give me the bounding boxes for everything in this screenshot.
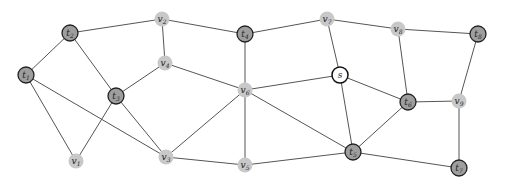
node-label: s bbox=[338, 70, 343, 80]
node-t6: t6 bbox=[400, 94, 416, 110]
node-t1: t1 bbox=[18, 67, 34, 83]
edge-v4-v6 bbox=[165, 63, 245, 90]
edge-v6-t5 bbox=[245, 90, 353, 152]
edge-t2-v2 bbox=[70, 19, 162, 33]
edge-t1-t2 bbox=[26, 33, 70, 75]
edge-t1-v3 bbox=[26, 75, 166, 157]
node-v7: v7 bbox=[320, 12, 335, 27]
edge-v3-v6 bbox=[166, 90, 245, 157]
edge-v7-v8 bbox=[327, 19, 398, 29]
edge-t4-v7 bbox=[245, 19, 327, 34]
edge-v8-t8 bbox=[398, 29, 478, 34]
edge-v3-v5 bbox=[166, 157, 245, 165]
edge-v6-s bbox=[245, 75, 340, 90]
node-t7: t7 bbox=[451, 160, 467, 176]
edge-layer bbox=[26, 19, 478, 168]
node-v1: v1 bbox=[69, 154, 84, 169]
node-t4: t4 bbox=[237, 26, 253, 42]
node-s: s bbox=[332, 67, 348, 83]
node-v8: v8 bbox=[391, 22, 406, 37]
node-v6: v6 bbox=[238, 83, 253, 98]
node-t5: t5 bbox=[345, 144, 361, 160]
edge-t1-v1 bbox=[26, 75, 76, 161]
node-t2: t2 bbox=[62, 25, 78, 41]
node-v4: v4 bbox=[158, 56, 173, 71]
edge-t3-v3 bbox=[116, 96, 166, 157]
node-v2: v2 bbox=[155, 12, 170, 27]
edge-v5-t5 bbox=[245, 152, 353, 165]
edge-t3-v1 bbox=[76, 96, 116, 161]
node-t8: t8 bbox=[470, 26, 486, 42]
node-t3: t3 bbox=[108, 88, 124, 104]
edge-t2-t3 bbox=[70, 33, 116, 96]
node-v5: v5 bbox=[238, 158, 253, 173]
edge-s-t6 bbox=[340, 75, 408, 102]
edge-v2-t4 bbox=[162, 19, 245, 34]
edge-v8-t6 bbox=[398, 29, 408, 102]
edge-t8-v9 bbox=[459, 34, 478, 101]
node-v9: v9 bbox=[452, 94, 467, 109]
edge-t6-t5 bbox=[353, 102, 408, 152]
edge-s-t5 bbox=[340, 75, 353, 152]
edge-v4-t3 bbox=[116, 63, 165, 96]
node-v3: v3 bbox=[159, 150, 174, 165]
graph-diagram: t1t2t3t4t5t6t7t8v1v2v3v4v5v6v7v8v9s bbox=[0, 0, 505, 184]
edge-t5-t7 bbox=[353, 152, 459, 168]
